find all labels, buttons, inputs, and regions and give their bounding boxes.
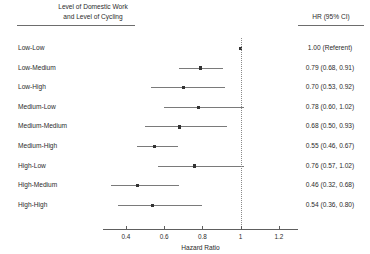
point-estimate-marker — [193, 164, 196, 167]
confidence-interval-line — [118, 205, 202, 206]
confidence-interval-line — [111, 185, 180, 186]
x-axis-tick-label: 0.8 — [190, 233, 214, 241]
x-axis-tick-label: 0.6 — [152, 233, 176, 241]
point-estimate-marker — [197, 106, 200, 109]
confidence-interval-line — [137, 146, 177, 147]
point-estimate-marker — [136, 184, 139, 187]
confidence-interval-line — [145, 126, 227, 127]
forest-plot-figure: Level of Domestic Work and Level of Cycl… — [0, 0, 370, 254]
x-axis-tick-label: 1.2 — [267, 233, 291, 241]
reference-line — [241, 38, 242, 229]
x-axis-tick — [126, 226, 127, 229]
point-estimate-marker — [182, 86, 185, 89]
x-axis-tick-label: 1 — [229, 233, 253, 241]
point-estimate-marker — [199, 66, 202, 69]
x-axis-line — [103, 229, 298, 230]
x-axis-title: Hazard Ratio — [141, 243, 261, 252]
x-axis-tick — [279, 226, 280, 229]
confidence-interval-line — [158, 166, 244, 167]
confidence-interval-line — [151, 87, 226, 88]
confidence-interval-line — [164, 107, 244, 108]
x-axis-tick — [164, 226, 165, 229]
x-axis-tick — [241, 226, 242, 229]
x-axis-tick-label: 0.4 — [114, 233, 138, 241]
point-estimate-marker — [178, 125, 181, 128]
x-axis-tick — [202, 226, 203, 229]
point-estimate-marker — [153, 145, 156, 148]
point-estimate-marker — [151, 204, 154, 207]
plot-area: 0.40.60.811.2Hazard Ratio — [0, 0, 370, 254]
